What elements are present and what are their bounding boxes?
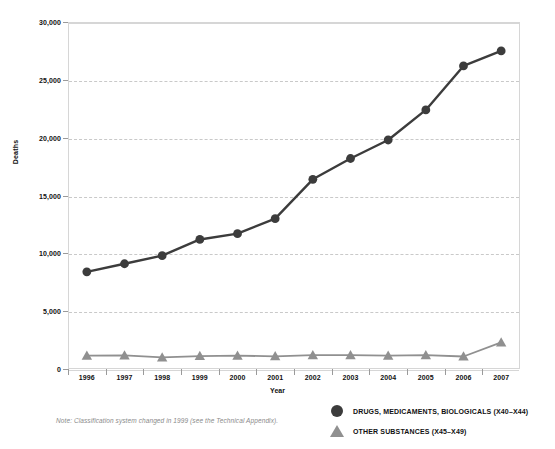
legend-item-other-substances[interactable]: OTHER SUBSTANCES (X45–X49) <box>330 424 528 438</box>
x-axis-tick-mark <box>407 369 408 375</box>
chart-footnote: Note: Classification system changed in 1… <box>56 417 278 424</box>
x-axis-tick-mark <box>482 369 483 375</box>
data-point-circle <box>308 175 317 184</box>
y-axis-tick-label: 10,000 <box>9 250 61 257</box>
x-axis-tick-label: 2001 <box>267 374 283 381</box>
y-axis-tick-label: 0 <box>9 366 61 373</box>
series-other-substances <box>82 337 507 361</box>
legend-item-drugs[interactable]: DRUGS, MEDICAMENTS, BIOLOGICALS (X40–X44… <box>330 404 528 418</box>
series-line <box>87 342 501 357</box>
y-axis-tick-label: 15,000 <box>9 192 61 199</box>
x-axis-tick-mark <box>369 369 370 375</box>
data-point-circle <box>384 136 393 145</box>
x-axis-tick-mark <box>143 369 144 375</box>
data-point-circle <box>195 235 204 244</box>
x-axis-tick-label: 2000 <box>230 374 246 381</box>
x-axis-tick-label: 2005 <box>418 374 434 381</box>
y-axis-tick-label: 5,000 <box>9 308 61 315</box>
x-axis-tick-label: 2006 <box>456 374 472 381</box>
y-axis-tick-label: 25,000 <box>9 76 61 83</box>
data-point-circle <box>120 259 129 268</box>
y-axis-title: Deaths <box>12 122 19 182</box>
chart-container: Deaths 05,00010,00015,00020,00025,00030,… <box>0 0 555 449</box>
data-point-circle <box>459 62 468 71</box>
x-axis-tick-mark <box>332 369 333 375</box>
x-axis-tick-mark <box>256 369 257 375</box>
chart-legend: DRUGS, MEDICAMENTS, BIOLOGICALS (X40–X44… <box>330 404 528 438</box>
data-point-circle <box>346 154 355 163</box>
data-point-circle <box>497 47 506 56</box>
triangle-marker-icon <box>330 424 344 438</box>
x-axis-tick-label: 2007 <box>493 374 509 381</box>
data-point-circle <box>82 267 91 276</box>
legend-item-label: DRUGS, MEDICAMENTS, BIOLOGICALS (X40–X44… <box>353 408 528 415</box>
x-axis-tick-mark <box>68 369 69 375</box>
circle-marker-icon <box>330 404 344 418</box>
data-point-circle <box>421 106 430 115</box>
data-point-circle <box>158 251 167 260</box>
legend-item-label: OTHER SUBSTANCES (X45–X49) <box>353 428 466 435</box>
data-point-circle <box>233 229 242 238</box>
x-axis-tick-mark <box>294 369 295 375</box>
x-axis-tick-label: 1999 <box>192 374 208 381</box>
y-axis-tick-label: 30,000 <box>9 19 61 26</box>
x-axis-tick-label: 1996 <box>79 374 95 381</box>
x-axis-tick-mark <box>445 369 446 375</box>
y-axis-tick-label: 20,000 <box>9 134 61 141</box>
x-axis-tick-label: 1997 <box>117 374 133 381</box>
x-axis-title: Year <box>0 387 555 394</box>
series-line <box>87 51 501 272</box>
data-series-layer <box>68 22 520 369</box>
x-axis-tick-label: 2002 <box>305 374 321 381</box>
x-axis-tick-label: 2003 <box>343 374 359 381</box>
x-axis-tick-label: 2004 <box>380 374 396 381</box>
x-axis-tick-mark <box>106 369 107 375</box>
series-drugs <box>82 47 505 277</box>
data-point-triangle <box>496 337 506 346</box>
x-axis-tick-mark <box>219 369 220 375</box>
data-point-circle <box>271 214 280 223</box>
x-axis-tick-mark <box>181 369 182 375</box>
x-axis-tick-label: 1998 <box>154 374 170 381</box>
